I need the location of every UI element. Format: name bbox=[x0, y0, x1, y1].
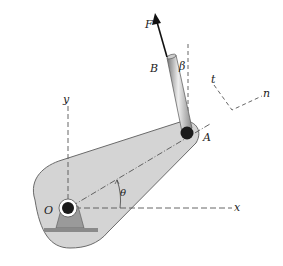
label-theta: θ bbox=[120, 187, 126, 198]
force-arrow bbox=[157, 22, 167, 57]
label-y: y bbox=[62, 93, 70, 106]
label-b: B bbox=[149, 62, 158, 75]
label-a: A bbox=[202, 131, 211, 144]
force-arrowhead bbox=[152, 13, 161, 25]
label-n: n bbox=[263, 87, 270, 100]
tn-axes bbox=[214, 85, 262, 110]
ground-base bbox=[44, 228, 98, 232]
label-x: x bbox=[234, 201, 241, 214]
pin-a bbox=[181, 127, 194, 140]
label-o: O bbox=[44, 204, 53, 217]
label-t: t bbox=[211, 73, 216, 86]
mechanics-diagram: F B β t n y A O θ x bbox=[0, 0, 283, 266]
label-force: F bbox=[144, 18, 153, 31]
label-beta: β bbox=[178, 60, 185, 73]
